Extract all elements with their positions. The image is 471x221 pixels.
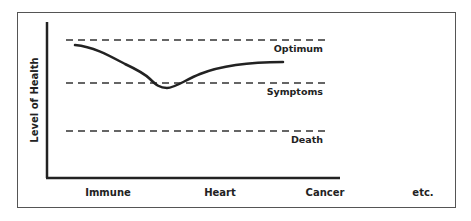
x-category-heart: Heart [204,187,236,198]
death-label: Death [291,134,323,145]
health-diagram: Optimum Symptoms Death Level of Health I… [0,0,471,221]
x-category-cancer: Cancer [306,187,345,198]
health-curve [75,45,283,88]
symptoms-label: Symptoms [267,86,324,97]
x-category-etc: etc. [412,187,433,198]
optimum-label: Optimum [274,43,323,54]
y-axis-label: Level of Health [29,57,40,142]
x-category-immune: Immune [85,187,131,198]
